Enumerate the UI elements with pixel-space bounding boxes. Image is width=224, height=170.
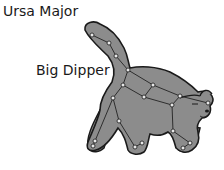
bear-nose — [205, 110, 209, 113]
bear-illustration — [0, 0, 224, 170]
bear-body — [85, 22, 213, 154]
